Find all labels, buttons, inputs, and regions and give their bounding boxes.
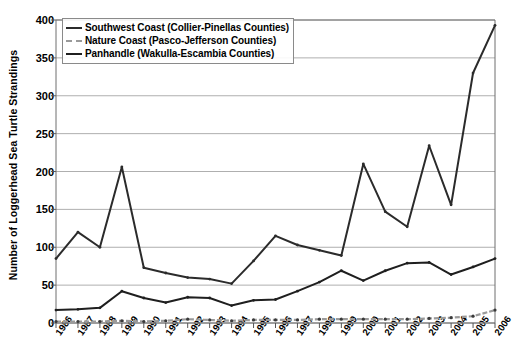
- data-point: [164, 301, 167, 304]
- data-point: [472, 72, 475, 75]
- data-point: [120, 290, 123, 293]
- data-point: [384, 318, 387, 321]
- data-point: [208, 318, 211, 321]
- data-point: [340, 318, 343, 321]
- data-point: [252, 299, 255, 302]
- legend-swatch-icon: [66, 36, 82, 46]
- data-point: [362, 318, 365, 321]
- data-point: [252, 259, 255, 262]
- data-point: [274, 298, 277, 301]
- data-point: [142, 297, 145, 300]
- data-point: [230, 319, 233, 322]
- data-point: [120, 319, 123, 322]
- data-point: [55, 257, 58, 260]
- data-point: [362, 279, 365, 282]
- data-point: [77, 308, 80, 311]
- data-point: [493, 309, 496, 312]
- data-point: [186, 318, 189, 321]
- data-point: [274, 234, 277, 237]
- data-point: [384, 210, 387, 213]
- data-point: [428, 317, 431, 320]
- data-point: [99, 246, 102, 249]
- data-point: [406, 262, 409, 265]
- data-point: [186, 296, 189, 299]
- legend-item-2: Panhandle (Wakulla-Escambia Counties): [66, 47, 289, 60]
- data-point: [318, 318, 321, 321]
- series-line-0: [56, 25, 495, 283]
- data-point: [98, 320, 101, 323]
- data-point: [494, 24, 497, 27]
- data-point: [472, 266, 475, 269]
- data-point: [208, 297, 211, 300]
- data-point: [450, 316, 453, 319]
- data-point: [120, 166, 123, 169]
- data-point: [77, 231, 80, 234]
- data-point: [406, 225, 409, 228]
- data-point: [208, 278, 211, 281]
- data-point: [340, 269, 343, 272]
- chart-legend: Southwest Coast (Collier-Pinellas Counti…: [62, 18, 294, 64]
- data-point: [230, 304, 233, 307]
- data-point: [318, 249, 321, 252]
- data-point: [494, 257, 497, 260]
- data-point: [142, 320, 145, 323]
- series-line-2: [56, 259, 495, 311]
- data-point: [471, 315, 474, 318]
- data-point: [428, 261, 431, 264]
- legend-label: Southwest Coast (Collier-Pinellas Counti…: [85, 22, 289, 33]
- data-point: [230, 282, 233, 285]
- data-point: [164, 319, 167, 322]
- data-point: [186, 276, 189, 279]
- data-point: [76, 320, 79, 323]
- data-point: [450, 273, 453, 276]
- data-point: [274, 318, 277, 321]
- data-point: [252, 318, 255, 321]
- data-point: [296, 290, 299, 293]
- legend-swatch-icon: [66, 23, 82, 33]
- data-point: [450, 203, 453, 206]
- data-point: [384, 269, 387, 272]
- data-point: [142, 266, 145, 269]
- data-point: [55, 309, 58, 312]
- data-point: [296, 244, 299, 247]
- data-point: [296, 318, 299, 321]
- data-point: [362, 163, 365, 166]
- data-point: [99, 306, 102, 309]
- data-point: [340, 254, 343, 257]
- legend-swatch-icon: [66, 49, 82, 59]
- data-point: [318, 281, 321, 284]
- data-point: [428, 144, 431, 147]
- legend-item-0: Southwest Coast (Collier-Pinellas Counti…: [66, 21, 289, 34]
- legend-label: Nature Coast (Pasco-Jefferson Counties): [85, 35, 276, 46]
- legend-label: Panhandle (Wakulla-Escambia Counties): [85, 48, 274, 59]
- data-point: [54, 320, 57, 323]
- data-point: [164, 272, 167, 275]
- legend-item-1: Nature Coast (Pasco-Jefferson Counties): [66, 34, 289, 47]
- data-point: [406, 318, 409, 321]
